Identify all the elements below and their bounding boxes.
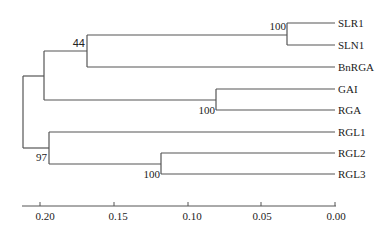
leaf-label-rga: RGA [338,104,361,116]
axis-label-0-15: 0.15 [108,210,128,222]
axis-label-0-20: 0.20 [35,210,55,222]
axis-label-0-10: 0.10 [182,210,202,222]
support-slr-bnrga: 44 [73,37,85,49]
support-gai-rga: 100 [199,104,216,116]
support-slr1-sln1: 100 [270,20,287,32]
clade-della-upper [44,51,216,100]
leaf-label-rgl1: RGL1 [338,126,366,138]
distance-axis: 0.20 0.15 0.10 0.05 0.00 [22,202,346,222]
phylogenetic-tree: SLR1 SLN1 BnRGA GAI RGA RGL1 RGL2 RGL3 1… [0,0,392,239]
leaf-label-bnrga: BnRGA [338,61,374,73]
clade-slr1-sln1 [287,23,335,45]
support-rgl: 97 [36,151,48,163]
leaf-label-rgl2: RGL2 [338,147,366,159]
leaf-label-rgl3: RGL3 [338,168,366,180]
clade-rgl2-rgl3 [161,153,335,174]
leaf-label-slr1: SLR1 [338,17,364,29]
clade-rgl [49,132,335,164]
root [23,76,49,148]
axis-label-0-05: 0.05 [252,210,272,222]
clade-gai-rga [216,89,335,110]
axis-label-0-00: 0.00 [326,210,346,222]
leaf-label-gai: GAI [338,83,358,95]
leaf-label-sln1: SLN1 [338,39,364,51]
clade-slr-bnrga [87,35,335,67]
support-rgl2-rgl3: 100 [144,168,161,180]
